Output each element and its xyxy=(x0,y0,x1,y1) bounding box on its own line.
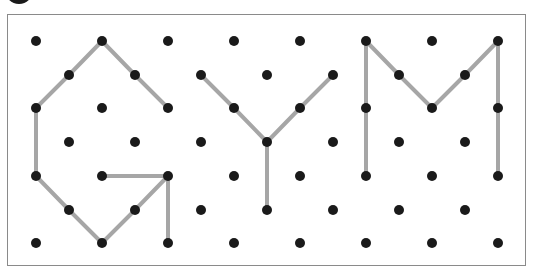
grid-dot xyxy=(262,205,272,215)
grid-dot xyxy=(394,137,404,147)
grid-dot xyxy=(97,36,107,46)
grid-dots xyxy=(31,36,503,248)
grid-dot xyxy=(196,70,206,80)
grid-dot xyxy=(97,103,107,113)
grid-dot xyxy=(130,137,140,147)
grid-dot xyxy=(97,238,107,248)
grid-dot xyxy=(427,238,437,248)
grid-dot xyxy=(460,137,470,147)
grid-dot xyxy=(460,70,470,80)
grid-dot xyxy=(493,36,503,46)
grid-dot xyxy=(64,70,74,80)
grid-dot xyxy=(493,103,503,113)
grid-dot xyxy=(328,70,338,80)
grid-dot xyxy=(295,103,305,113)
grid-dot xyxy=(229,103,239,113)
letter-stroke-g xyxy=(36,41,168,243)
grid-dot xyxy=(130,205,140,215)
grid-dot xyxy=(196,205,206,215)
grid-dot xyxy=(163,36,173,46)
grid-dot xyxy=(493,238,503,248)
grid-dot xyxy=(196,137,206,147)
grid-dot xyxy=(31,103,41,113)
grid-dot xyxy=(361,36,371,46)
grid-dot xyxy=(97,171,107,181)
dot-grid-puzzle xyxy=(0,0,536,274)
grid-dot xyxy=(163,171,173,181)
grid-dot xyxy=(361,103,371,113)
grid-dot xyxy=(427,36,437,46)
grid-dot xyxy=(460,205,470,215)
grid-dot xyxy=(229,171,239,181)
grid-dot xyxy=(31,36,41,46)
grid-dot xyxy=(427,171,437,181)
grid-dot xyxy=(361,171,371,181)
grid-dot xyxy=(64,137,74,147)
grid-dot xyxy=(394,205,404,215)
grid-dot xyxy=(64,205,74,215)
grid-dot xyxy=(295,36,305,46)
grid-dot xyxy=(361,238,371,248)
grid-dot xyxy=(229,36,239,46)
grid-dot xyxy=(229,238,239,248)
grid-dot xyxy=(130,70,140,80)
grid-dot xyxy=(31,171,41,181)
grid-dot xyxy=(163,238,173,248)
grid-dot xyxy=(295,238,305,248)
grid-dot xyxy=(328,137,338,147)
grid-dot xyxy=(328,205,338,215)
grid-dot xyxy=(163,103,173,113)
grid-dot xyxy=(493,171,503,181)
grid-dot xyxy=(262,70,272,80)
grid-dot xyxy=(31,238,41,248)
grid-dot xyxy=(427,103,437,113)
grid-dot xyxy=(394,70,404,80)
grid-dot xyxy=(262,137,272,147)
grid-dot xyxy=(295,171,305,181)
